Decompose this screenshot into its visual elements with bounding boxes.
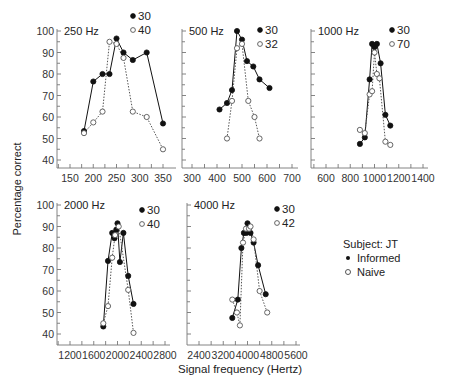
svg-text:100: 100 [36,199,54,211]
svg-text:80: 80 [42,242,54,254]
panel-500-hz: 300400500600700500 Hz3032 [182,24,301,184]
svg-text:30: 30 [138,10,151,22]
svg-text:400: 400 [208,172,226,184]
svg-text:500: 500 [233,172,251,184]
svg-text:1000: 1000 [363,172,387,184]
panel-1000-hz: 6008001000120014001000 Hz3070 [311,24,435,184]
svg-text:150: 150 [61,172,79,184]
svg-text:60: 60 [42,285,54,297]
svg-text:40: 40 [42,154,54,166]
x-axis-title: Signal frequency (Hertz) [178,363,302,375]
tuning-curves-chart: 405060708090100150200250300350250 Hz3040… [0,0,453,388]
legend-label-informed: Informed [357,251,400,265]
svg-text:700: 700 [283,172,301,184]
svg-text:200: 200 [84,172,102,184]
svg-text:2800: 2800 [153,349,177,361]
svg-text:60: 60 [42,111,54,123]
svg-text:100: 100 [36,25,54,37]
svg-text:42: 42 [282,217,295,229]
svg-text:70: 70 [42,90,54,102]
svg-text:250: 250 [108,172,126,184]
svg-text:1200: 1200 [58,349,82,361]
svg-text:4800: 4800 [260,349,284,361]
svg-text:2400: 2400 [187,349,211,361]
legend-item-naive: Naive [343,265,400,279]
svg-text:1600: 1600 [82,349,106,361]
svg-text:40: 40 [138,24,151,36]
filled-circle-icon [346,256,350,260]
svg-text:2000: 2000 [106,349,130,361]
svg-text:30: 30 [282,203,295,215]
svg-text:40: 40 [147,218,160,230]
svg-text:1200: 1200 [387,172,411,184]
svg-text:1000 Hz: 1000 Hz [318,25,359,37]
legend-label-naive: Naive [357,265,385,279]
y-axis-title: Percentage correct [11,134,23,244]
svg-text:3200: 3200 [212,349,236,361]
svg-text:250 Hz: 250 Hz [64,25,99,37]
svg-text:5600: 5600 [284,349,308,361]
svg-text:4000: 4000 [236,349,260,361]
svg-text:300: 300 [183,172,201,184]
svg-text:2400: 2400 [130,349,154,361]
svg-text:30: 30 [397,24,410,36]
svg-text:800: 800 [341,172,359,184]
panel-2000-hz: 405060708090100120016002000240028002000 … [36,199,176,361]
legend-item-informed: Informed [343,251,400,265]
svg-text:90: 90 [42,47,54,59]
panel-250-hz: 405060708090100150200250300350250 Hz3040 [36,10,176,184]
svg-text:2000 Hz: 2000 Hz [64,199,105,211]
svg-text:40: 40 [42,328,54,340]
svg-text:70: 70 [397,38,410,50]
legend: Subject: JT Informed Naive [343,237,400,279]
svg-text:50: 50 [42,133,54,145]
svg-text:600: 600 [317,172,335,184]
open-circle-icon [345,269,351,275]
svg-text:350: 350 [154,172,172,184]
svg-text:90: 90 [42,221,54,233]
svg-text:600: 600 [258,172,276,184]
svg-text:30: 30 [265,24,278,36]
svg-text:80: 80 [42,68,54,80]
legend-title: Subject: JT [343,237,400,251]
panel-4000-hz: 240032004000480056004000 Hz3042 [187,199,308,361]
svg-text:4000 Hz: 4000 Hz [194,199,235,211]
svg-text:1400: 1400 [411,172,435,184]
svg-text:70: 70 [42,264,54,276]
svg-text:300: 300 [131,172,149,184]
svg-text:30: 30 [147,204,160,216]
svg-text:500 Hz: 500 Hz [189,25,224,37]
svg-text:32: 32 [265,38,278,50]
svg-text:50: 50 [42,307,54,319]
